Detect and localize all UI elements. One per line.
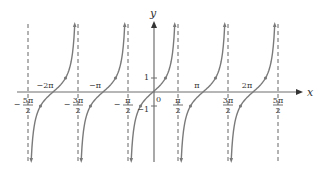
curve-arrow-down-icon bbox=[129, 158, 133, 163]
x-tick-label: 2π bbox=[242, 81, 252, 90]
x-tick-denominator: 2 bbox=[25, 106, 30, 115]
marked-point bbox=[64, 76, 67, 79]
curve-arrow-down-icon bbox=[29, 158, 33, 163]
tangent-graph: x y 0 5π2−3π2−π2−π23π25π2−2π−ππ2π1−1 bbox=[0, 0, 320, 173]
x-tick-label: π bbox=[194, 81, 199, 90]
origin-label: 0 bbox=[156, 95, 161, 104]
marked-point bbox=[114, 76, 117, 79]
marked-point bbox=[164, 76, 167, 79]
y-axis-label: y bbox=[149, 7, 157, 20]
y-axis-arrow-icon bbox=[151, 21, 157, 28]
curve-arrow-up-icon bbox=[173, 22, 177, 27]
x-tick-label: −π bbox=[89, 81, 101, 90]
x-tick-numerator: π bbox=[175, 96, 180, 105]
curve-arrow-up-icon bbox=[123, 22, 127, 27]
tick-labels: 5π2−3π2−π2−π23π25π2−2π−ππ2π1−1 bbox=[14, 73, 284, 115]
curve-arrow-up-icon bbox=[273, 22, 277, 27]
marked-point bbox=[239, 104, 242, 107]
x-tick-denominator: 2 bbox=[125, 106, 130, 115]
x-axis-arrow-icon bbox=[296, 89, 303, 95]
x-axis-label: x bbox=[307, 86, 314, 99]
curve-arrow-down-icon bbox=[179, 158, 183, 163]
x-tick-sign: − bbox=[64, 100, 71, 109]
asymptote-lines bbox=[28, 24, 278, 163]
x-tick-denominator: 2 bbox=[175, 106, 180, 115]
axis-labels: x y 0 bbox=[149, 7, 314, 104]
x-tick-sign: − bbox=[14, 100, 21, 109]
x-tick-denominator: 2 bbox=[225, 106, 230, 115]
curve-arrow-up-icon bbox=[73, 22, 77, 27]
x-tick-numerator: 3π bbox=[73, 96, 83, 105]
x-tick-denominator: 2 bbox=[275, 106, 280, 115]
x-tick-numerator: 3π bbox=[223, 96, 233, 105]
x-tick-label: −2π bbox=[36, 81, 53, 90]
x-tick-denominator: 2 bbox=[75, 106, 80, 115]
x-tick-numerator: π bbox=[125, 96, 130, 105]
curve-arrow-down-icon bbox=[79, 158, 83, 163]
x-tick-sign: − bbox=[114, 100, 121, 109]
curve-arrow-up-icon bbox=[223, 22, 227, 27]
curve-arrow-down-icon bbox=[229, 158, 233, 163]
x-tick-numerator: 5π bbox=[23, 96, 33, 105]
marked-point bbox=[214, 76, 217, 79]
x-tick-numerator: 5π bbox=[273, 96, 283, 105]
y-tick-label: 1 bbox=[144, 73, 149, 82]
axes bbox=[17, 21, 303, 162]
marked-point bbox=[89, 104, 92, 107]
marked-point bbox=[39, 104, 42, 107]
y-tick-label: −1 bbox=[137, 105, 149, 114]
marked-point bbox=[189, 104, 192, 107]
marked-point bbox=[264, 76, 267, 79]
